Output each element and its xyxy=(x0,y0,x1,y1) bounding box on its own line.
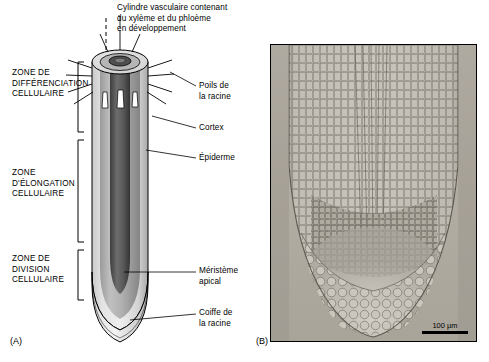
zone-label-elongation: ZONE D'ÉLONGATION CELLULAIRE xyxy=(12,168,88,200)
label-root-hairs: Poils de la racine xyxy=(199,81,261,102)
micrograph-panel: 100 µm xyxy=(270,44,477,342)
zone-label-differentiation: ZONE DE DIFFÉRENCIATION CELLULAIRE xyxy=(12,68,88,100)
label-cortex: Cortex xyxy=(199,123,261,134)
micrograph-image xyxy=(271,45,476,341)
label-epidermis: Épiderme xyxy=(199,153,261,164)
root-top-cross-section xyxy=(92,50,148,74)
scale-bar-label: 100 µm xyxy=(422,321,468,330)
scale-bar: 100 µm xyxy=(422,321,468,335)
panel-letter-b: (B) xyxy=(256,336,268,346)
scale-bar-line xyxy=(422,331,468,334)
label-vascular-cylinder: Cylindre vasculaire contenant du xylème … xyxy=(117,3,265,35)
figure-root-anatomy: ZONE DE DIFFÉRENCIATION CELLULAIRE ZONE … xyxy=(0,0,489,362)
label-apical-meristem: Méristème apical xyxy=(199,266,261,287)
panel-letter-a: (A) xyxy=(10,336,22,346)
zone-label-division: ZONE DE DIVISION CELLULAIRE xyxy=(12,254,88,286)
label-root-cap: Coiffe de la racine xyxy=(199,308,261,329)
